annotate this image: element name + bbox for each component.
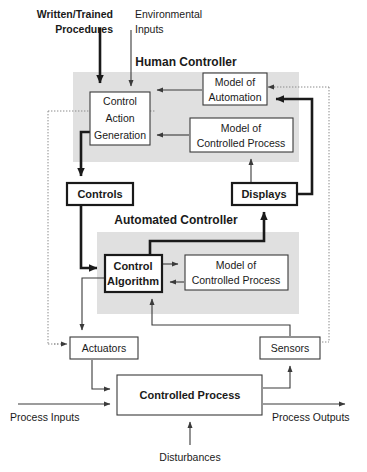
actuators-label: Actuators <box>82 342 126 354</box>
displays-box[interactable]: Displays <box>232 183 297 205</box>
control-algorithm-label-line2: Algorithm <box>107 275 159 287</box>
model-of-controlled-process-human-label-line1: Model of <box>221 122 261 134</box>
control-algorithm-label-line1: Control <box>113 260 152 272</box>
sensors-label: Sensors <box>271 342 310 354</box>
model-of-controlled-process-auto-box[interactable]: Model of Controlled Process <box>185 255 288 290</box>
control-action-generation-label-line2: Action <box>105 112 134 124</box>
disturbances-label: Disturbances <box>159 451 220 463</box>
actuators-box[interactable]: Actuators <box>70 337 138 359</box>
control-action-generation-box[interactable]: Control Action Generation <box>90 92 150 145</box>
model-of-automation-label-line1: Model of <box>215 76 255 88</box>
automated-controller-title: Automated Controller <box>114 213 238 227</box>
control-action-generation-label-line1: Control <box>103 95 137 107</box>
model-of-automation-box[interactable]: Model of Automation <box>203 73 267 105</box>
model-of-controlled-process-auto-label-line1: Model of <box>216 259 256 271</box>
controls-box[interactable]: Controls <box>67 183 133 205</box>
sensors-box[interactable]: Sensors <box>260 337 320 359</box>
controlled-process-box[interactable]: Controlled Process <box>117 375 262 415</box>
controlled-process-label: Controlled Process <box>140 389 241 401</box>
model-of-automation-label-line2: Automation <box>208 91 261 103</box>
process-to-sensors-arrow <box>263 366 290 388</box>
controls-label: Controls <box>77 188 122 200</box>
written-trained-procedures-label-line2: Procedures <box>55 23 113 35</box>
model-of-controlled-process-human-label-line2: Controlled Process <box>197 137 286 149</box>
environmental-inputs-label-line2: Inputs <box>135 23 164 35</box>
actuators-to-process-arrow <box>92 360 110 389</box>
controls-to-control-algorithm-arrow <box>81 206 97 268</box>
process-outputs-label: Process Outputs <box>272 411 350 423</box>
control-action-generation-label-line3: Generation <box>94 129 146 141</box>
written-trained-procedures-label-line1: Written/Trained <box>37 8 113 20</box>
control-structure-diagram: Control Action Generation Model of Autom… <box>0 0 367 472</box>
process-inputs-label: Process Inputs <box>10 411 79 423</box>
control-algorithm-box[interactable]: Control Algorithm <box>105 255 162 292</box>
diagram-canvas: Control Action Generation Model of Autom… <box>0 0 367 472</box>
displays-label: Displays <box>241 188 286 200</box>
model-of-controlled-process-auto-label-line2: Controlled Process <box>192 274 281 286</box>
environmental-inputs-label-line1: Environmental <box>135 8 202 20</box>
human-controller-title: Human Controller <box>135 55 237 69</box>
model-of-controlled-process-human-box[interactable]: Model of Controlled Process <box>190 118 293 152</box>
